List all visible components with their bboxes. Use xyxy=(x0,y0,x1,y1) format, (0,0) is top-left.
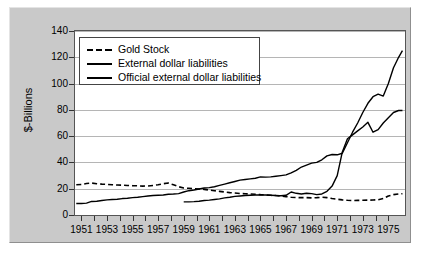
legend-item[interactable]: Official external dollar liabilities xyxy=(87,70,259,83)
x-tick xyxy=(197,216,198,221)
chart-figure: $-Billions 020406080100120140 1951195319… xyxy=(0,0,421,257)
x-tick-label: 1965 xyxy=(246,224,274,235)
x-tick xyxy=(107,216,108,221)
x-tick-label: 1955 xyxy=(119,224,147,235)
x-tick xyxy=(273,216,274,221)
y-tick-label: 20 xyxy=(34,184,68,194)
chart-panel: $-Billions 020406080100120140 1951195319… xyxy=(9,7,411,243)
y-tick xyxy=(69,110,74,111)
y-tick-label: 80 xyxy=(34,105,68,115)
x-tick xyxy=(158,216,159,221)
x-tick-label: 1953 xyxy=(93,224,121,235)
y-tick xyxy=(69,31,74,32)
x-tick xyxy=(337,216,338,221)
x-tick-label: 1957 xyxy=(144,224,172,235)
x-tick-label: 1969 xyxy=(298,224,326,235)
x-tick xyxy=(286,216,287,221)
x-tick xyxy=(209,216,210,221)
legend-label: Official external dollar liabilities xyxy=(118,71,261,83)
x-tick xyxy=(171,216,172,221)
x-tick-label: 1963 xyxy=(221,224,249,235)
chart-legend: Gold StockExternal dollar liabilitiesOff… xyxy=(79,37,260,85)
y-tick-label: 140 xyxy=(34,26,68,36)
x-tick xyxy=(363,216,364,221)
x-tick xyxy=(81,216,82,221)
y-tick xyxy=(69,162,74,163)
x-tick xyxy=(120,216,121,221)
solid-line-icon xyxy=(87,58,112,68)
x-tick-label: 1959 xyxy=(170,224,198,235)
x-tick xyxy=(248,216,249,221)
legend-item[interactable]: Gold Stock xyxy=(87,42,259,55)
y-tick xyxy=(69,136,74,137)
x-tick xyxy=(388,216,389,221)
x-tick-label: 1971 xyxy=(323,224,351,235)
x-tick-label: 1967 xyxy=(272,224,300,235)
y-tick-label: 40 xyxy=(34,157,68,167)
series-line xyxy=(184,111,403,202)
y-axis-labels: 020406080100120140 xyxy=(28,8,68,242)
x-tick xyxy=(222,216,223,221)
y-tick xyxy=(69,84,74,85)
y-tick xyxy=(69,189,74,190)
solid-line-icon xyxy=(87,72,112,82)
y-tick xyxy=(69,215,74,216)
dashed-line-icon xyxy=(87,44,112,54)
x-tick xyxy=(312,216,313,221)
x-tick-label: 1975 xyxy=(374,224,402,235)
y-tick-label: 0 xyxy=(34,210,68,220)
x-tick xyxy=(94,216,95,221)
x-tick xyxy=(324,216,325,221)
x-tick xyxy=(184,216,185,221)
x-tick-label: 1961 xyxy=(195,224,223,235)
y-tick-label: 60 xyxy=(34,131,68,141)
y-tick-label: 120 xyxy=(34,52,68,62)
x-tick xyxy=(299,216,300,221)
x-tick-label: 1973 xyxy=(349,224,377,235)
x-tick xyxy=(133,216,134,221)
x-tick xyxy=(145,216,146,221)
y-tick-label: 100 xyxy=(34,79,68,89)
x-tick-label: 1951 xyxy=(67,224,95,235)
x-tick xyxy=(376,216,377,221)
legend-label: External dollar liabilities xyxy=(118,57,228,69)
x-tick xyxy=(350,216,351,221)
x-tick xyxy=(260,216,261,221)
legend-label: Gold Stock xyxy=(118,43,169,55)
legend-item[interactable]: External dollar liabilities xyxy=(87,56,259,69)
y-tick xyxy=(69,57,74,58)
x-tick xyxy=(235,216,236,221)
